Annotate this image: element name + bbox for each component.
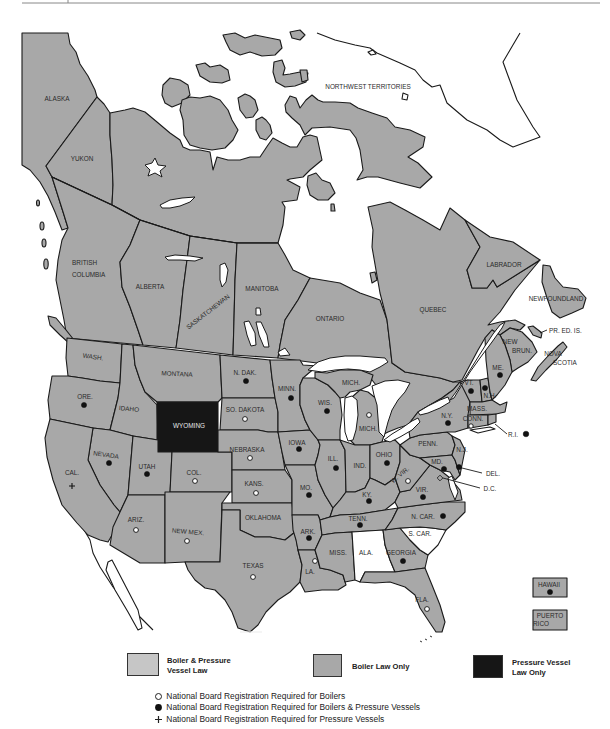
new-mex-marker-icon — [185, 539, 190, 544]
nebraska-marker-icon — [248, 456, 253, 461]
lake-manitoba-small — [256, 308, 261, 315]
label-conn: CONN. — [463, 415, 484, 422]
n-dak-marker-icon — [243, 378, 248, 383]
legend-registration-boilers: National Board Registration Required for… — [152, 691, 345, 702]
label-puerto-rico-line2: RICO — [533, 620, 549, 627]
label-n-car: N. CAR. — [411, 513, 435, 520]
region-rhode-island — [488, 414, 496, 425]
label-hawaii: HAWAII — [538, 581, 560, 588]
label-georgia: GEORGIA — [386, 549, 417, 556]
legend-registration-text: National Board Registration Required for… — [166, 691, 345, 701]
legend-label-line1: Pressure Vessel — [512, 658, 570, 668]
label-british-columbia-line1: BRITISH — [72, 259, 98, 266]
legend-registration-text: National Board Registration Required for… — [166, 714, 384, 724]
wis-marker-icon — [324, 408, 329, 413]
label-kans: KANS. — [244, 480, 263, 487]
label-pr-ed-is: PR. ED. IS. — [549, 327, 582, 334]
la-marker-icon — [313, 559, 318, 564]
label-vt: VT. — [464, 379, 473, 386]
label-me: ME. — [492, 364, 504, 371]
label-n-dak: N. DAK. — [233, 369, 256, 376]
legend-label-line2: Law Only — [512, 668, 570, 678]
legend-swatch-boiler-pressure-vessel-law — [127, 653, 159, 676]
w-vir-marker-icon — [406, 479, 411, 484]
nevada-marker-icon — [106, 460, 111, 465]
region-labrador — [465, 220, 540, 288]
label-mich-lower: MICH. — [359, 425, 377, 432]
label-ind: IND. — [354, 462, 367, 469]
label-penn: PENN. — [418, 440, 438, 447]
label-alberta: ALBERTA — [136, 283, 165, 290]
me-marker-icon — [497, 372, 502, 377]
island-coastal-1 — [40, 222, 44, 230]
utah-marker-icon — [144, 471, 149, 476]
legend-registration-boilers-pressure-vessels: National Board Registration Required for… — [152, 702, 420, 713]
label-wis: WIS. — [318, 399, 332, 406]
leader-delaware — [462, 468, 482, 473]
island-bathurst — [223, 33, 282, 56]
label-n-j: N.J. — [456, 446, 468, 453]
label-ariz: ARIZ. — [128, 516, 145, 523]
region-prince-edward-island — [528, 326, 542, 338]
label-vir: VIR. — [416, 486, 429, 493]
filled-circle-icon — [152, 702, 164, 713]
region-north-dakota — [220, 355, 275, 398]
label-nebraska: NEBRASKA — [230, 446, 266, 453]
label-n-h: N.H. — [484, 392, 497, 399]
legend-label-boiler-pressure-vessel-law: Boiler & Pressure Vessel Law — [167, 656, 231, 676]
legend-label-line2: Vessel Law — [167, 666, 231, 676]
label-s-car: S. CAR. — [408, 530, 431, 537]
legend-swatch-boiler-law-only — [313, 654, 342, 677]
label-mo: MO. — [300, 484, 312, 491]
legend-label-line1: Boiler & Pressure — [167, 656, 231, 666]
n-car-marker-icon — [440, 513, 445, 518]
label-fla: FLA. — [415, 596, 429, 603]
label-puerto-rico-line1: PUERTO — [537, 612, 563, 619]
leader-pei — [540, 330, 547, 333]
label-cal: CAL. — [65, 469, 79, 476]
label-tenn: TENN. — [348, 515, 367, 522]
label-col: COL. — [187, 469, 202, 476]
col-marker-icon — [193, 479, 198, 484]
label-ky: KY. — [362, 491, 372, 498]
island-coastal-4 — [37, 200, 40, 206]
label-ala: ALA. — [359, 549, 373, 556]
label-texas: TEXAS — [243, 562, 264, 569]
fla-marker-icon — [425, 607, 430, 612]
legend-registration-pressure-vessels: National Board Registration Required for… — [152, 714, 384, 725]
leader-rhode-island — [495, 424, 507, 434]
plus-icon — [152, 714, 164, 725]
label-r-i: R.I. — [508, 431, 518, 438]
vir-marker-icon — [420, 494, 425, 499]
island-prince-of-wales — [238, 94, 258, 118]
mich-lower-marker-icon — [367, 413, 372, 418]
north-america-map: ALASKA YUKON NORTHWEST TERRITORIES BRITI… — [0, 0, 610, 729]
island-southampton — [307, 173, 335, 200]
tenn-marker-icon — [357, 522, 362, 527]
label-newfoundland: NEWFOUNDLAND — [529, 295, 584, 302]
n-y-marker-icon — [445, 420, 450, 425]
mo-marker-icon — [306, 492, 311, 497]
label-mich-upper: MICH. — [342, 379, 360, 386]
label-manitoba: MANITOBA — [245, 285, 279, 292]
island-king-william — [256, 117, 272, 140]
label-ill: ILL. — [328, 455, 339, 462]
legend-swatch-pressure-vessel-law-only — [473, 655, 503, 678]
ky-marker-icon — [366, 498, 371, 503]
ore-marker-icon — [81, 402, 86, 407]
region-newfoundland — [542, 265, 586, 318]
region-florida — [360, 568, 445, 632]
label-oklahoma: OKLAHOMA — [245, 514, 282, 521]
minn-marker-icon — [288, 395, 293, 400]
island-small — [300, 70, 308, 82]
label-new-brun-line2: BRUN. — [512, 347, 532, 354]
label-wyoming: WYOMING — [173, 422, 205, 429]
label-new-brun-line1: NEW — [503, 338, 519, 345]
md-marker-icon — [441, 466, 446, 471]
label-utah: UTAH — [139, 463, 156, 470]
legend-label-pressure-vessel-law-only: Pressure Vessel Law Only — [512, 658, 570, 678]
vt-marker-icon — [468, 388, 473, 393]
georgia-marker-icon — [400, 558, 405, 563]
label-minn: MINN. — [278, 385, 296, 392]
label-northwest-territories: NORTHWEST TERRITORIES — [325, 83, 410, 90]
